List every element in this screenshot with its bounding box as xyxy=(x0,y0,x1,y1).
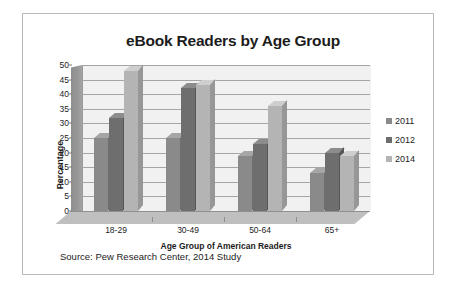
legend-swatch-icon xyxy=(386,118,392,124)
bar-front-face xyxy=(340,156,354,211)
y-axis-tick-mark xyxy=(69,211,72,212)
legend-item-2014[interactable]: 2014 xyxy=(386,154,415,164)
legend-label: 2011 xyxy=(395,116,414,126)
bar-2012-65+[interactable] xyxy=(325,153,339,211)
bar-group xyxy=(94,65,138,211)
bar-group xyxy=(166,65,210,211)
bar-front-face xyxy=(196,85,210,211)
y-axis-tick-label: 30 xyxy=(43,118,69,128)
legend-swatch-icon xyxy=(386,137,392,143)
y-axis-tick-label: 45 xyxy=(43,75,69,85)
x-axis-label: Age Group of American Readers xyxy=(82,241,370,251)
bar-2012-50-64[interactable] xyxy=(253,144,267,211)
legend-item-2012[interactable]: 2012 xyxy=(386,135,415,145)
y-axis-tick-mark xyxy=(69,167,72,168)
chart-frame: eBook Readers by Age Group Percentage 05… xyxy=(22,13,434,275)
y-axis-tick-mark xyxy=(69,138,72,139)
bar-side-face xyxy=(210,79,215,211)
bar-front-face xyxy=(325,153,339,211)
x-axis-tick-label: 18-29 xyxy=(86,225,146,235)
bar-front-face xyxy=(166,138,180,211)
y-axis-tick-mark xyxy=(69,79,72,80)
bar-front-face xyxy=(181,88,195,211)
x-axis-tick-label: 50-64 xyxy=(230,225,290,235)
x-axis-tick-mark xyxy=(152,217,153,222)
y-axis: Percentage 05101520253035404550 xyxy=(39,65,69,211)
legend-item-2011[interactable]: 2011 xyxy=(386,116,415,126)
bar-2014-18-29[interactable] xyxy=(124,71,138,211)
y-axis-tick-label: 10 xyxy=(43,177,69,187)
bar-group xyxy=(238,65,282,211)
y-axis-tick-mark xyxy=(69,181,72,182)
y-axis-tick-mark xyxy=(69,65,72,66)
x-axis-tick-label: 30-49 xyxy=(158,225,218,235)
bar-side-face xyxy=(354,150,359,211)
bar-front-face xyxy=(238,156,252,211)
plot-area: Percentage 05101520253035404550 18-2930-… xyxy=(23,14,435,276)
y-axis-tick-mark xyxy=(69,123,72,124)
y-axis-tick-label: 0 xyxy=(43,206,69,216)
x-axis-tick-mark xyxy=(224,217,225,222)
bar-2014-65+[interactable] xyxy=(340,156,354,211)
bar-front-face xyxy=(124,71,138,211)
bar-front-face xyxy=(109,118,123,211)
chart-floor-3d xyxy=(56,211,370,224)
bar-2011-18-29[interactable] xyxy=(94,138,108,211)
bar-2012-18-29[interactable] xyxy=(109,118,123,211)
legend-label: 2012 xyxy=(395,135,415,145)
chart-left-wall-3d xyxy=(71,65,82,214)
y-axis-tick-label: 5 xyxy=(43,191,69,201)
x-axis-tick-label: 65+ xyxy=(302,225,362,235)
bar-front-face xyxy=(268,106,282,211)
source-caption: Source: Pew Research Center, 2014 Study xyxy=(60,251,241,262)
legend-swatch-icon xyxy=(386,156,392,162)
chart-legend: 201120122014 xyxy=(386,116,415,173)
bar-group xyxy=(310,65,354,211)
bar-2011-50-64[interactable] xyxy=(238,156,252,211)
bar-2011-30-49[interactable] xyxy=(166,138,180,211)
bar-2014-50-64[interactable] xyxy=(268,106,282,211)
bar-side-face xyxy=(138,65,143,211)
y-axis-tick-label: 20 xyxy=(43,148,69,158)
x-axis-tick-mark xyxy=(296,217,297,222)
y-axis-tick-mark xyxy=(69,94,72,95)
y-axis-tick-mark xyxy=(69,196,72,197)
bar-front-face xyxy=(253,144,267,211)
bar-2014-30-49[interactable] xyxy=(196,85,210,211)
plot-canvas xyxy=(82,65,370,211)
y-axis-tick-label: 35 xyxy=(43,104,69,114)
y-axis-tick-label: 50 xyxy=(43,60,69,70)
bar-2012-30-49[interactable] xyxy=(181,88,195,211)
bar-front-face xyxy=(310,173,324,211)
y-axis-tick-label: 15 xyxy=(43,162,69,172)
bar-side-face xyxy=(282,100,287,211)
bar-2011-65+[interactable] xyxy=(310,173,324,211)
y-axis-tick-label: 25 xyxy=(43,133,69,143)
bar-front-face xyxy=(94,138,108,211)
y-axis-tick-mark xyxy=(69,152,72,153)
y-axis-tick-mark xyxy=(69,108,72,109)
legend-label: 2014 xyxy=(395,154,415,164)
y-axis-tick-label: 40 xyxy=(43,89,69,99)
axis-baseline xyxy=(82,211,370,212)
